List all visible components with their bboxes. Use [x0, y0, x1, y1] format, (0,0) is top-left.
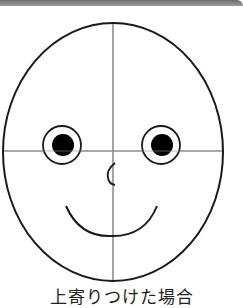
- left-eye: [43, 126, 81, 164]
- smile-mouth: [66, 206, 157, 236]
- figure-caption: 上寄りつけた場合: [0, 283, 243, 308]
- nose: [108, 163, 115, 185]
- right-eye: [142, 126, 180, 164]
